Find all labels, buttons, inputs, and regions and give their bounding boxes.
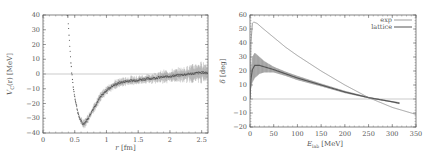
left-ytick-label: 20 [32, 41, 40, 49]
right-ytick-label: 40 [239, 39, 247, 47]
left-potential-data [67, 14, 209, 128]
left-ytick-label: −40 [26, 129, 40, 137]
right-ytick-label: 60 [239, 11, 247, 19]
right-ytick-label: 30 [239, 53, 247, 61]
left-xtick-label: 0.5 [70, 136, 80, 144]
left-ytick-label: −30 [26, 114, 40, 122]
left-xtick-label: 2.5 [196, 136, 206, 144]
lattice-error-band [250, 53, 399, 104]
right-ytick-label: −20 [233, 123, 247, 131]
right-xtick-label: 250 [362, 130, 374, 138]
left-ytick-label: 30 [32, 26, 40, 34]
right-ytick-label: 20 [239, 67, 247, 75]
right-xtick-label: 150 [315, 130, 327, 138]
right-ytick-label: −10 [233, 109, 247, 117]
right-ytick-label: 50 [239, 25, 247, 33]
left-ytick-label: −20 [26, 100, 40, 108]
right-ytick-label: 10 [239, 81, 247, 89]
left-xtick-label: 1.5 [133, 136, 143, 144]
right-x-axis-label: Elab [MeV] [306, 140, 343, 149]
right-phase-shift-chart: 050100150200250300350−20−100102030405060… [217, 0, 434, 159]
right-phase-data [250, 22, 416, 114]
right-xtick-label: 350 [410, 130, 422, 138]
right-chart-panel: 050100150200250300350−20−100102030405060… [217, 0, 434, 159]
left-ytick-label: 0 [36, 70, 40, 78]
right-xtick-label: 50 [270, 130, 278, 138]
right-xtick-label: 200 [339, 130, 351, 138]
right-xtick-label: 100 [291, 130, 303, 138]
right-ytick-label: 0 [243, 95, 247, 103]
left-xtick-label: 2 [168, 136, 172, 144]
left-y-axis-label: VC(r) [MeV] [6, 53, 15, 95]
legend: explattice [371, 16, 412, 31]
left-x-axis-label: r [fm] [115, 144, 136, 152]
left-xtick-label: 1 [104, 136, 108, 144]
left-ytick-label: −10 [26, 85, 40, 93]
legend-lattice-label: lattice [371, 23, 392, 31]
right-xtick-label: 0 [248, 130, 252, 138]
right-y-axis-label: δ [deg] [219, 58, 227, 83]
left-xtick-label: 0 [41, 136, 45, 144]
left-ytick-label: 40 [32, 11, 40, 19]
left-chart-panel: 00.511.522.5−40−30−20−10010203040VC(r) [… [0, 0, 217, 159]
left-potential-chart: 00.511.522.5−40−30−20−10010203040VC(r) [… [0, 0, 217, 159]
right-xtick-label: 300 [386, 130, 398, 138]
left-ytick-label: 10 [32, 55, 40, 63]
